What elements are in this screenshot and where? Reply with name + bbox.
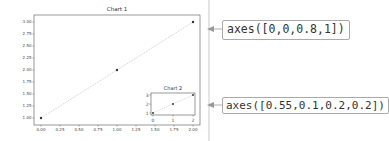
callout-main-axes: axes([0,0,0.8,1]) xyxy=(222,20,350,40)
svg-text:2.50: 2.50 xyxy=(23,43,32,48)
svg-text:1.00: 1.00 xyxy=(23,115,32,120)
svg-text:2.00: 2.00 xyxy=(189,127,198,132)
svg-text:0: 0 xyxy=(152,118,155,123)
main-chart-title: Chart 1 xyxy=(107,6,127,12)
svg-text:2: 2 xyxy=(146,102,149,107)
svg-text:1.75: 1.75 xyxy=(170,127,179,132)
svg-text:1: 1 xyxy=(146,111,149,116)
svg-text:1.00: 1.00 xyxy=(113,127,122,132)
svg-text:1.25: 1.25 xyxy=(23,103,32,108)
svg-text:1.75: 1.75 xyxy=(23,79,32,84)
svg-text:2.75: 2.75 xyxy=(23,31,32,36)
main-y-ticks: 1.001.251.501.752.002.252.502.753.00 xyxy=(23,19,34,120)
callout-arrows xyxy=(207,0,222,141)
svg-text:2.25: 2.25 xyxy=(23,55,32,60)
arrow-head-main-icon xyxy=(207,26,214,32)
svg-text:3.00: 3.00 xyxy=(23,19,32,24)
svg-text:2: 2 xyxy=(192,118,195,123)
svg-text:0.75: 0.75 xyxy=(94,127,103,132)
svg-text:0.25: 0.25 xyxy=(56,127,65,132)
inset-chart-title: Chart 2 xyxy=(164,85,183,91)
svg-text:1.25: 1.25 xyxy=(132,127,141,132)
arrow-head-inset-icon xyxy=(207,102,214,108)
svg-text:0.00: 0.00 xyxy=(37,127,46,132)
main-x-ticks: 0.000.250.500.751.001.251.501.752.00 xyxy=(37,125,198,132)
callout-inset-axes: axes([0.55,0.1,0.2,0.2]) xyxy=(222,97,389,114)
svg-text:1.50: 1.50 xyxy=(23,91,32,96)
svg-text:1: 1 xyxy=(172,118,175,123)
svg-text:3: 3 xyxy=(146,93,149,98)
svg-text:1.50: 1.50 xyxy=(151,127,160,132)
svg-text:0.50: 0.50 xyxy=(75,127,84,132)
svg-text:2.00: 2.00 xyxy=(23,67,32,72)
